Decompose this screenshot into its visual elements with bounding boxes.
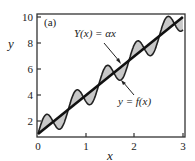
y-tick-6: 6	[28, 63, 34, 75]
curve-label-arrow	[123, 82, 134, 95]
chart: 2 4 6 8 10 y 0 1 2 3 x (a) Y(x) = αx y =…	[0, 0, 195, 161]
x-tick-2: 2	[131, 140, 137, 152]
y-tick-10: 10	[22, 11, 34, 23]
y-axis: 2 4 6 8 10 y	[6, 11, 41, 127]
x-tick-1: 1	[83, 140, 89, 152]
y-tick-8: 8	[28, 37, 34, 49]
x-axis-label: x	[106, 148, 113, 161]
line-label: Y(x) = αx	[74, 27, 116, 40]
x-tick-3: 3	[180, 140, 186, 152]
y-tick-4: 4	[28, 89, 34, 101]
panel-label: (a)	[44, 16, 57, 29]
curve-label: y = f(x)	[117, 95, 151, 108]
y-axis-label: y	[6, 36, 14, 51]
y-tick-2: 2	[28, 115, 34, 127]
x-tick-0: 0	[35, 140, 41, 152]
